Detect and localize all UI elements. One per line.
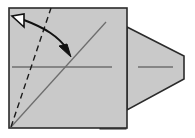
- origami-canvas: [0, 0, 195, 138]
- origami-diagram: [0, 0, 195, 138]
